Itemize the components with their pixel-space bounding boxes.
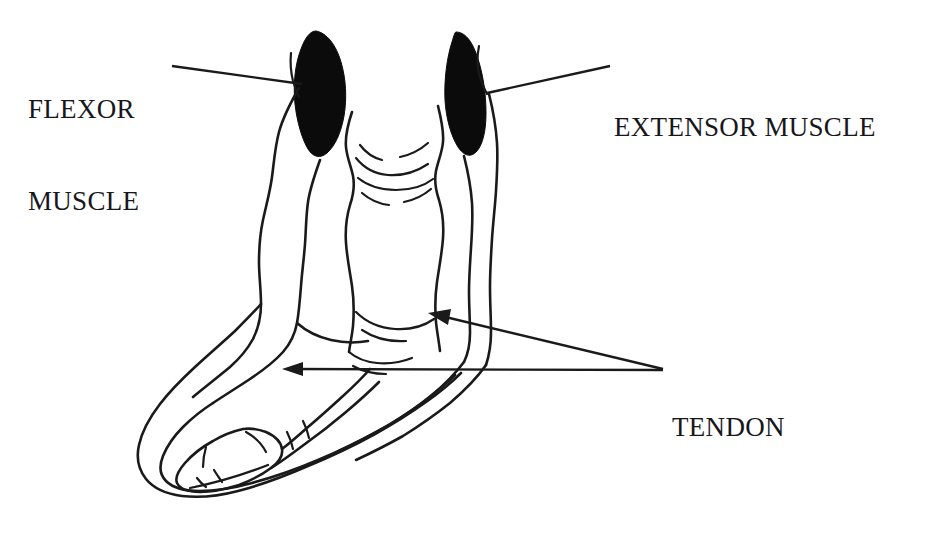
- label-tendon: TENDON: [672, 350, 785, 504]
- label-flexor-line1: FLEXOR: [28, 94, 139, 125]
- label-flexor-muscle: FLEXOR MUSCLE: [28, 32, 139, 278]
- tendon-arrow-upper: [428, 309, 663, 369]
- flexor-muscle-shape: [294, 31, 345, 156]
- anatomical-figure: FLEXOR MUSCLE EXTENSOR MUSCLE TENDON: [0, 0, 940, 547]
- label-extensor-line1: EXTENSOR MUSCLE: [614, 112, 876, 143]
- flexor-tendon-path: [193, 88, 320, 403]
- extensor-muscle-shape: [445, 32, 486, 155]
- label-extensor-muscle: EXTENSOR MUSCLE: [614, 50, 876, 204]
- label-tendon-line1: TENDON: [672, 412, 785, 443]
- flexor-leader-line: [172, 66, 302, 84]
- label-flexor-line2: MUSCLE: [28, 186, 139, 217]
- extensor-leader-line: [487, 66, 610, 93]
- midfoot-bone-outline: [271, 369, 379, 468]
- cannon-bone-outline: [346, 106, 444, 352]
- tendon-arrow-lower: [282, 362, 663, 376]
- ankle-detail: [297, 323, 412, 374]
